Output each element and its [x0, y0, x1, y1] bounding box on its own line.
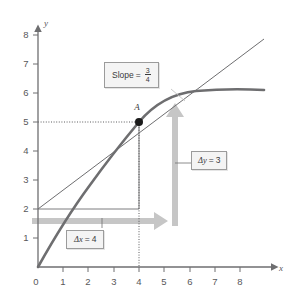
x-tick-label-7: 7	[212, 276, 217, 287]
slope-diagram-figure: 1 2 3 4 5 6 7 8 0 1 2 3 4 5 6 7 8 y x A	[0, 0, 294, 298]
delta-x-equals-sign: =	[85, 235, 90, 244]
x-tick-label-8: 8	[237, 276, 242, 287]
x-ticks	[63, 267, 240, 272]
x-axis-label: x	[278, 263, 283, 273]
slope-equals-sign: =	[136, 71, 141, 80]
delta-y-symbol: Δy	[198, 156, 207, 165]
delta-y-equals-sign: =	[209, 156, 214, 165]
y-tick-label-8: 8	[23, 29, 28, 40]
x-tick-label-4: 4	[136, 276, 141, 287]
slope-denominator: 4	[145, 74, 151, 83]
point-a-label: A	[133, 102, 140, 112]
slope-text: Slope	[112, 71, 134, 80]
x-tick-labels: 0 1 2 3 4 5 6 7 8	[33, 276, 242, 287]
y-tick-label-2: 2	[23, 203, 28, 214]
plot-canvas: 1 2 3 4 5 6 7 8 0 1 2 3 4 5 6 7 8 y x A	[0, 0, 294, 298]
y-tick-label-4: 4	[23, 145, 28, 156]
y-tick-label-1: 1	[23, 232, 28, 243]
delta-y-value: 3	[216, 156, 221, 165]
y-tick-labels: 1 2 3 4 5 6 7 8	[23, 29, 28, 243]
x-tick-label-0: 0	[33, 276, 38, 287]
point-a-marker	[135, 118, 143, 126]
delta-x-value: 4	[92, 235, 97, 244]
y-ticks	[33, 35, 38, 238]
delta-y-arrow	[166, 103, 184, 226]
delta-y-callout-box: Δy = 3	[191, 151, 227, 170]
slope-callout-box: Slope = 3 4	[104, 62, 159, 88]
slope-fraction: 3 4	[145, 67, 151, 83]
y-axis-label: y	[43, 18, 48, 28]
x-tick-label-2: 2	[85, 276, 90, 287]
delta-x-arrow	[32, 212, 168, 230]
delta-x-callout-box: Δx = 4	[66, 230, 104, 249]
y-tick-label-5: 5	[23, 116, 28, 127]
y-tick-label-6: 6	[23, 87, 28, 98]
x-tick-label-3: 3	[111, 276, 116, 287]
x-tick-label-1: 1	[60, 276, 65, 287]
slope-numerator: 3	[145, 67, 151, 75]
x-tick-label-5: 5	[161, 276, 166, 287]
delta-x-symbol: Δx	[74, 235, 83, 244]
x-tick-label-6: 6	[187, 276, 192, 287]
y-tick-label-3: 3	[23, 174, 28, 185]
y-tick-label-7: 7	[23, 58, 28, 69]
rise-run-construction	[38, 122, 139, 209]
